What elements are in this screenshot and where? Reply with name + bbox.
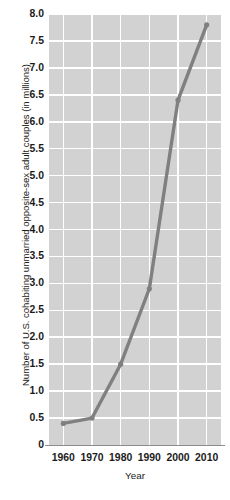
y-tick-label: 5.5	[16, 144, 44, 154]
y-tick-label: 4.0	[16, 225, 44, 235]
y-axis-tick-labels: 8.07.57.06.56.05.55.04.54.03.53.02.52.01…	[16, 0, 44, 500]
y-tick-label: 2.0	[16, 332, 44, 342]
y-tick-label: 0.5	[16, 413, 44, 423]
data-point-marker	[147, 286, 152, 291]
plot-area	[49, 14, 221, 445]
y-tick-label: 1.0	[16, 386, 44, 396]
y-tick-label: 1.5	[16, 359, 44, 369]
x-tick-label: 2010	[187, 451, 227, 464]
x-axis-rule	[45, 445, 225, 446]
y-tick-label: 3.0	[16, 278, 44, 288]
data-point-marker	[118, 362, 123, 367]
y-tick-label: 8.0	[16, 9, 44, 19]
data-series-line	[49, 14, 221, 445]
y-tick-label: 7.0	[16, 63, 44, 73]
y-tick-label: 2.5	[16, 305, 44, 315]
data-point-marker	[175, 98, 180, 103]
data-point-marker	[89, 415, 94, 420]
x-axis-title: Year	[49, 470, 221, 481]
y-tick-label: 6.5	[16, 90, 44, 100]
y-tick-label: 3.5	[16, 251, 44, 261]
y-tick-label: 5.0	[16, 171, 44, 181]
series-markers	[61, 22, 210, 426]
y-tick-label: 4.5	[16, 198, 44, 208]
data-point-marker	[61, 421, 66, 426]
y-tick-label: 0	[16, 440, 44, 450]
x-axis-tick-labels: 196019701980199020002010	[0, 451, 230, 467]
y-tick-label: 6.0	[16, 117, 44, 127]
data-point-marker	[204, 22, 209, 27]
series-polyline	[63, 25, 206, 424]
y-tick-label: 7.5	[16, 36, 44, 46]
line-chart: Number of U.S. cohabiting unmarried oppo…	[0, 0, 230, 500]
